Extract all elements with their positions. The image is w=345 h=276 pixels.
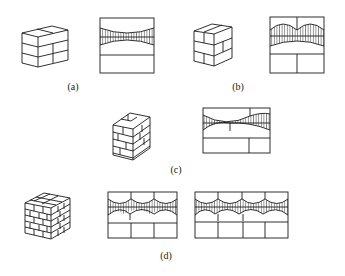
masonry-diagram xyxy=(0,0,345,276)
panel-d-elevation-three-arches xyxy=(108,192,177,238)
panel-c-brick-column xyxy=(113,113,150,160)
panel-label-c: (c) xyxy=(170,164,181,175)
panel-label-d: (d) xyxy=(160,250,172,261)
panel-label-b: (b) xyxy=(232,81,244,92)
panel-c-elevation xyxy=(203,108,270,153)
panel-a-brick-block xyxy=(22,26,68,67)
panel-label-a: (a) xyxy=(67,81,78,92)
panel-b-brick-block xyxy=(194,24,232,66)
panel-d-elevation-four-arches xyxy=(195,192,288,238)
panel-d-brick-cube xyxy=(25,193,70,239)
panel-b-elevation xyxy=(270,17,324,73)
panel-a-elevation xyxy=(100,18,154,73)
